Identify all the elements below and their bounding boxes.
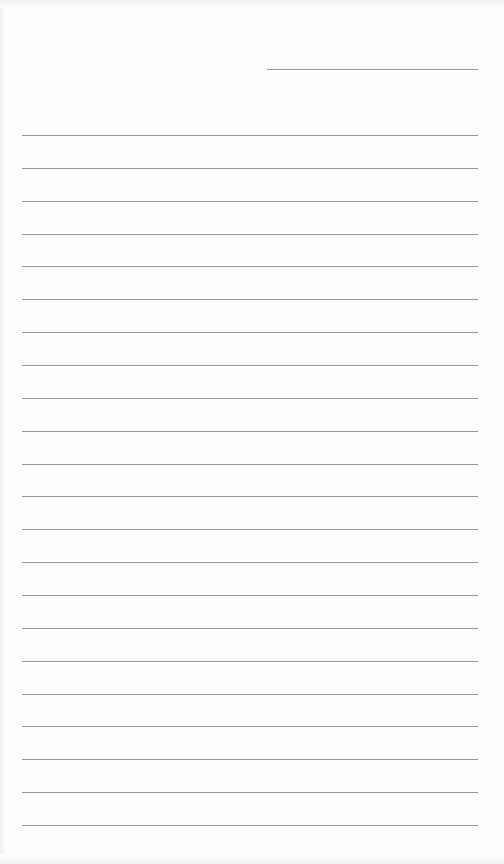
page-top-edge: [0, 0, 504, 8]
ruled-line: [22, 464, 478, 465]
ruled-line: [22, 168, 478, 169]
ruled-line: [22, 529, 478, 530]
ruled-line: [22, 266, 478, 267]
ruled-line: [22, 694, 478, 695]
ruled-line: [22, 201, 478, 202]
ruled-line: [22, 496, 478, 497]
ruled-line: [22, 825, 478, 826]
ruled-line: [22, 332, 478, 333]
page-bottom-edge: [0, 854, 504, 864]
ruled-line: [22, 792, 478, 793]
ruled-line: [22, 365, 478, 366]
page-left-edge: [0, 0, 6, 864]
ruled-line: [22, 595, 478, 596]
ruled-line: [22, 661, 478, 662]
ruled-line: [22, 562, 478, 563]
ruled-line: [22, 726, 478, 727]
ruled-line: [22, 299, 478, 300]
ruled-line: [22, 431, 478, 432]
ruled-line: [22, 759, 478, 760]
ruled-line: [22, 135, 478, 136]
ruled-line: [22, 398, 478, 399]
header-date-line: [267, 69, 478, 70]
ruled-line: [22, 628, 478, 629]
lined-paper-page: [0, 0, 504, 864]
ruled-line: [22, 234, 478, 235]
